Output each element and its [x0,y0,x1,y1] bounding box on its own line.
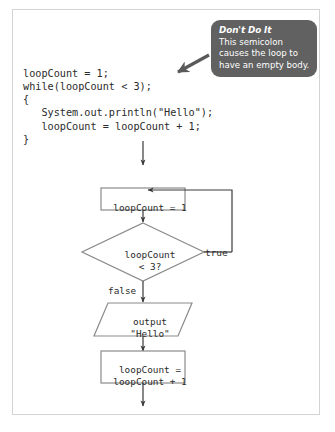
node-decision-label: loopCount < 3? [104,249,196,272]
edge-label-false: false [108,285,136,296]
node-increment-label: loopCount = loopCount + 1 [104,364,196,387]
figure-page: loopCount = 1; while(loopCount < 3); { S… [0,0,335,432]
callout-pointer-arrow [178,55,209,72]
node-output-label: output "Hello" [104,316,196,339]
node-init-label: loopCount = 1 [104,202,196,214]
edge-label-true: true [205,247,228,258]
